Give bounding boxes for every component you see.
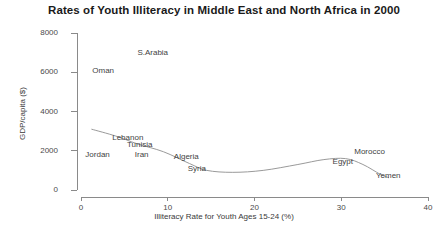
y-tick-label: 2000 [18,146,58,155]
point-label-egypt: Egypt [333,157,353,166]
point-label-morocco: Morocco [354,147,385,156]
x-tick-label: 20 [235,203,275,212]
x-tick-label: 0 [61,203,101,212]
y-tick-label: 8000 [18,28,58,37]
point-label-tunisia: Tunisia [127,140,153,149]
chart-plot-area [0,0,448,232]
y-axis-title: GDP/capita ($) [18,87,27,140]
x-tick-label: 30 [321,203,361,212]
chart-container: Rates of Youth Illiteracy in Middle East… [0,0,448,232]
point-label-algeria: Algeria [174,152,199,161]
point-label-oman: Oman [92,66,114,75]
x-tick-label: 40 [408,203,448,212]
point-label-iran: Iran [135,150,149,159]
x-tick-label: 10 [148,203,188,212]
y-tick-label: 0 [18,185,58,194]
x-axis-title: Illiteracy Rate for Youth Ages 15-24 (%) [0,212,448,221]
point-label-jordan: Jordan [85,150,109,159]
point-label-yemen: Yemen [376,171,401,180]
point-label-s-arabia: S.Arabia [137,48,168,57]
axes-group [71,33,428,201]
y-tick-label: 6000 [18,67,58,76]
point-label-syria: Syria [188,164,206,173]
